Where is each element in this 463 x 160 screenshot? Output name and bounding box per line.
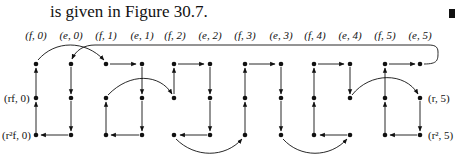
graph-vertices	[34, 62, 423, 138]
cayley-graph-diagram	[0, 0, 463, 160]
